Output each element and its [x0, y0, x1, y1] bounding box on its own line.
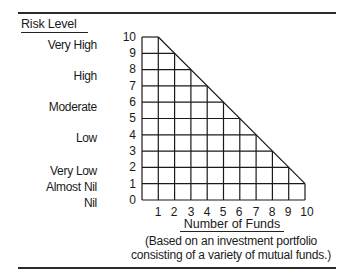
footnote-line-2: consisting of a variety of mutual funds.…: [120, 248, 342, 262]
footnote-line-1: (Based on an investment portfolio: [120, 234, 342, 248]
x-tick-10: 10: [297, 205, 317, 219]
x-axis-title: Number of Funds: [180, 217, 284, 232]
bottom-rule: [18, 267, 336, 269]
